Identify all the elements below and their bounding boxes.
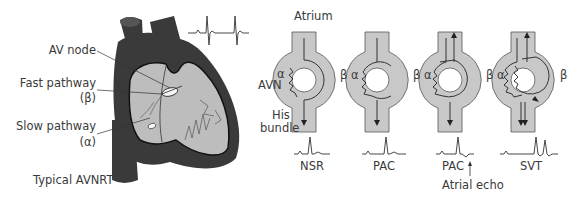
label-avn: AVN xyxy=(258,79,282,92)
schematic-panels xyxy=(273,32,554,132)
ecg-trace-pac xyxy=(362,137,406,154)
label-alpha-4: α xyxy=(497,69,505,82)
label-slow-pathway: Slow pathway xyxy=(0,120,96,133)
label-atrial-echo: Atrial echo xyxy=(442,179,504,192)
ecg-trace-heart xyxy=(188,16,249,45)
label-alpha-2: α xyxy=(351,69,359,82)
caption-svt: SVT xyxy=(511,160,551,173)
label-alpha-3: α xyxy=(424,69,432,82)
caption-pac-2: PAC xyxy=(436,160,470,173)
label-slow-symbol: (α) xyxy=(60,136,96,149)
caption-nsr: NSR xyxy=(292,160,332,173)
label-bundle: bundle xyxy=(260,122,299,135)
label-av-node: AV node xyxy=(20,44,96,57)
heart-illustration xyxy=(97,16,239,183)
label-beta-4: β xyxy=(560,69,567,82)
label-beta-2: β xyxy=(413,69,420,82)
caption-typical-avnrt: Typical AVNRT xyxy=(33,174,114,187)
label-atrium: Atrium xyxy=(294,10,333,23)
label-fast-pathway: Fast pathway xyxy=(10,77,96,90)
ecg-trace-pac-echo xyxy=(436,137,474,157)
ecg-trace-svt xyxy=(500,137,558,156)
label-beta-3: β xyxy=(486,69,493,82)
ecg-trace-nsr xyxy=(294,137,330,154)
label-fast-symbol: (β) xyxy=(60,92,96,105)
label-beta-1: β xyxy=(340,69,347,82)
caption-pac-1: PAC xyxy=(364,160,404,173)
